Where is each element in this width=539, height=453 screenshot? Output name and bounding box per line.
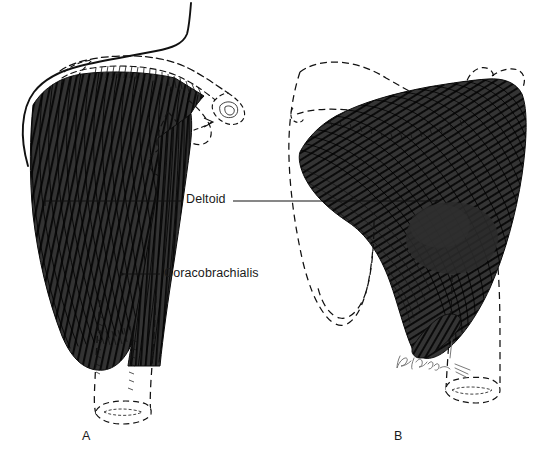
- deltoid-leader-endpoint-right: [435, 199, 438, 202]
- deltoid-b-shading-patch: [406, 202, 498, 274]
- coracobrachialis-leader-endpoint: [120, 272, 123, 275]
- panel-letter-b: B: [394, 429, 402, 443]
- label-coracobrachialis: Coracobrachialis: [164, 266, 259, 280]
- anatomy-figure: Deltoid Coracobrachialis A B: [0, 0, 539, 453]
- panel-letter-a: A: [82, 429, 90, 443]
- anatomy-illustration-svg: [0, 0, 539, 453]
- label-deltoid: Deltoid: [186, 192, 226, 206]
